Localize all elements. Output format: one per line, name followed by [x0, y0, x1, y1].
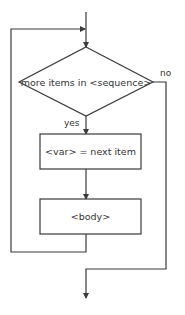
- no-branch-arrow: [86, 82, 166, 298]
- assign-label: <var> = next item: [45, 146, 136, 157]
- yes-label: yes: [64, 118, 80, 128]
- condition-label: more items in <sequence>: [21, 77, 151, 88]
- body-label: <body>: [71, 211, 110, 222]
- no-label: no: [160, 68, 172, 78]
- flowchart: more items in <sequence> no yes <var> = …: [0, 0, 185, 315]
